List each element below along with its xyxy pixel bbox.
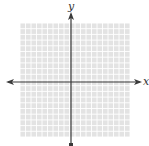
grid [20,23,130,137]
y-axis-bottom-arrow-icon [69,143,73,146]
y-axis-label: y [67,0,75,13]
x-axis-label: x [143,75,149,88]
coordinate-plane: x y [0,0,149,146]
